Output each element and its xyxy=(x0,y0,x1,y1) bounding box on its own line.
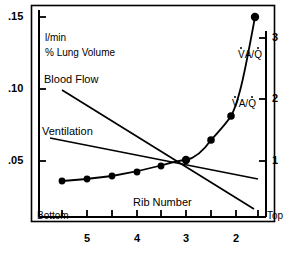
vaq-curve xyxy=(62,17,255,181)
ventilation-line xyxy=(50,138,258,179)
bottom-axis-ticks xyxy=(62,210,258,217)
data-point xyxy=(251,13,259,21)
data-point xyxy=(207,136,215,144)
vaq-upper-v-char: V xyxy=(238,50,245,60)
y-axis-right-tick-label-2: 2 xyxy=(272,93,278,104)
x-axis-tick-label-2: 2 xyxy=(233,233,239,244)
data-point xyxy=(227,112,235,120)
ventilation-series-label: Ventilation xyxy=(42,126,93,137)
vaq-upper-mid-char: A/ xyxy=(245,49,254,60)
data-point xyxy=(134,169,141,176)
vaq-lower-label: VA/Q xyxy=(232,99,256,109)
data-point xyxy=(59,178,66,185)
blood-flow-line xyxy=(62,90,254,209)
x-axis-title: Rib Number xyxy=(133,197,192,208)
vaq-lower-q-char: Q xyxy=(248,99,256,109)
data-point xyxy=(84,176,91,183)
x-axis-tick-label-3: 3 xyxy=(183,233,189,244)
data-point xyxy=(109,173,116,180)
x-axis-top-label: Top xyxy=(267,211,283,221)
y-axis-left-tick-label-15: .15 xyxy=(8,11,23,22)
plot-frame xyxy=(32,6,275,222)
y-axis-right-tick-label-1: 1 xyxy=(272,155,278,166)
y-axis-right-tick-label-3: 3 xyxy=(272,32,278,43)
data-point xyxy=(158,163,165,170)
vaq-lower-mid-char: A/ xyxy=(239,98,248,109)
chart-figure: .15 .10 .05 3 2 1 l/min % Lung Volume Bl… xyxy=(0,0,306,256)
data-point xyxy=(182,156,190,164)
x-axis-tick-label-4: 4 xyxy=(134,233,140,244)
y-axis-left-tick-label-10: .10 xyxy=(8,83,23,94)
x-axis-bottom-label: Bottom xyxy=(37,211,69,221)
y-axis-left-tick-label-05: .05 xyxy=(8,155,23,166)
y-axis-unit-line-1: l/min xyxy=(45,33,66,43)
x-axis-tick-label-5: 5 xyxy=(84,233,90,244)
blood-flow-series-label: Blood Flow xyxy=(44,74,98,85)
vaq-upper-q-char: Q xyxy=(254,50,262,60)
vaq-upper-label: VA/Q xyxy=(238,50,262,60)
y-axis-unit-line-2: % Lung Volume xyxy=(45,48,115,58)
vaq-lower-v-char: V xyxy=(232,99,239,109)
